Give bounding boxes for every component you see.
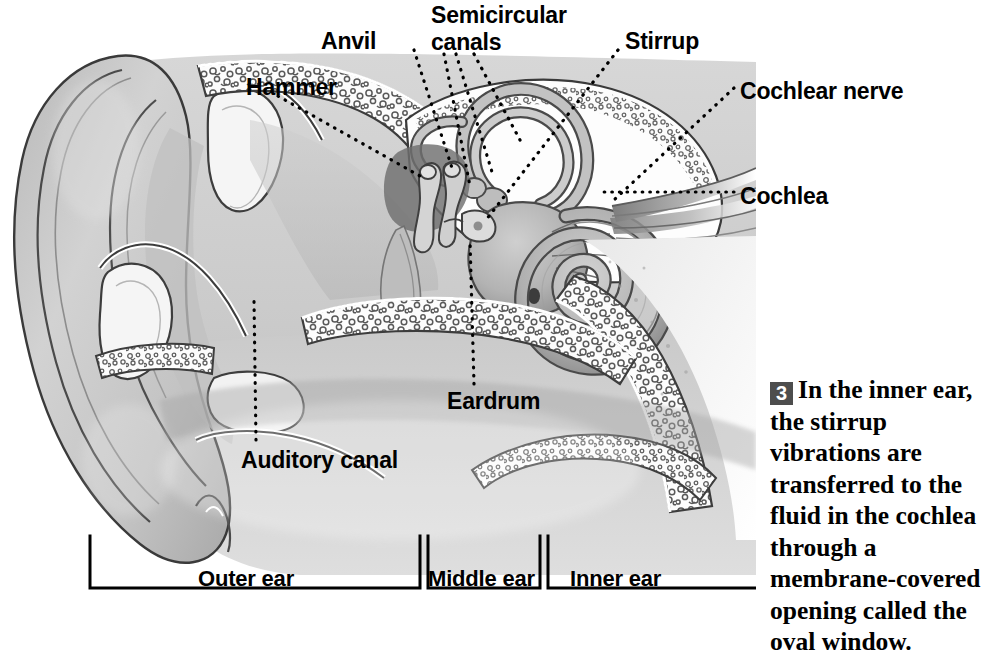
- region-label-outer-ear: Outer ear: [198, 566, 294, 592]
- label-cochlear-nerve: Cochlear nerve: [740, 78, 903, 104]
- label-stirrup: Stirrup: [625, 28, 699, 54]
- label-semicircular-canals-line2: canals: [431, 29, 501, 55]
- label-cochlea: Cochlea: [740, 183, 828, 209]
- step-caption-text: In the inner ear, the stirrup vibrations…: [770, 375, 981, 653]
- step-number-badge: 3: [770, 382, 793, 405]
- ear-anatomy-figure: Hammer Anvil Semicircular canals Stirrup…: [0, 0, 989, 653]
- step-caption: 3In the inner ear, the stirrup vibration…: [770, 374, 989, 653]
- label-eardrum: Eardrum: [447, 388, 540, 414]
- region-label-middle-ear: Middle ear: [428, 566, 535, 592]
- label-hammer: Hammer: [246, 74, 337, 100]
- label-semicircular-canals-line1: Semicircular: [431, 2, 567, 28]
- label-auditory-canal: Auditory canal: [241, 447, 398, 473]
- region-label-inner-ear: Inner ear: [570, 566, 661, 592]
- label-anvil: Anvil: [321, 28, 376, 54]
- ear-cross-section-illustration: [0, 0, 756, 653]
